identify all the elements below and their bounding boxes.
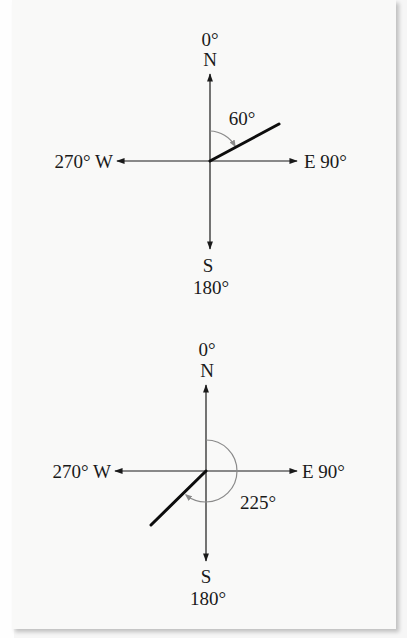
west-label: 270° W <box>53 461 112 482</box>
compass-60-diagram: 0° N 270° W E 90° S 180° 60° <box>55 29 347 298</box>
angle-arc-60 <box>210 131 235 146</box>
south-degree-label: 180° <box>193 277 229 298</box>
north-degree-label: 0° <box>201 29 218 50</box>
bearing-ray-60 <box>210 124 279 161</box>
bearing-label-60: 60° <box>229 108 256 129</box>
south-degree-label: 180° <box>190 588 226 609</box>
bearing-label-225: 225° <box>240 492 276 513</box>
east-label: E 90° <box>302 461 345 482</box>
page-background: 0° N 270° W E 90° S 180° 60° 0° N <box>0 0 407 638</box>
compass-bearing-figure: 0° N 270° W E 90° S 180° 60° 0° N <box>0 0 407 638</box>
north-degree-label: 0° <box>198 339 215 360</box>
compass-225-diagram: 0° N 270° W E 90° S 180° 225° <box>53 339 345 609</box>
south-label: S <box>203 255 214 276</box>
north-label: N <box>203 49 217 70</box>
north-label: N <box>200 360 214 381</box>
south-label: S <box>201 566 212 587</box>
east-label: E 90° <box>304 151 347 172</box>
bearing-ray-225 <box>151 471 206 525</box>
west-label: 270° W <box>55 151 114 172</box>
